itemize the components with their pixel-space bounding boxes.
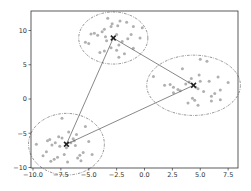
- data-point: [181, 67, 184, 70]
- data-point: [105, 39, 108, 42]
- data-point: [115, 49, 118, 52]
- data-point: [98, 51, 101, 54]
- data-point: [163, 84, 166, 87]
- data-point: [87, 42, 90, 45]
- data-point: [199, 80, 202, 83]
- data-point: [132, 25, 135, 28]
- data-point: [210, 95, 213, 98]
- data-point: [53, 158, 56, 161]
- x-tick-label: −10.0: [23, 171, 43, 179]
- data-point: [65, 146, 68, 149]
- data-point: [219, 98, 222, 101]
- data-point: [74, 144, 77, 147]
- data-point: [139, 37, 142, 40]
- centroid-connection-line: [66, 38, 113, 144]
- data-point: [45, 150, 48, 153]
- data-point: [75, 133, 78, 136]
- data-point: [172, 86, 175, 89]
- data-point: [198, 74, 201, 77]
- data-point: [125, 21, 128, 24]
- data-point: [48, 138, 51, 141]
- data-point: [184, 82, 187, 85]
- centroid-x-marker-icon: [111, 36, 116, 41]
- data-point: [35, 143, 38, 146]
- centroid-connection-line: [113, 38, 193, 85]
- data-point: [42, 154, 45, 157]
- y-axis: −10−50510: [13, 27, 31, 172]
- data-point: [78, 154, 81, 157]
- x-tick-label: 2.5: [167, 171, 177, 179]
- data-point: [66, 161, 69, 164]
- data-point: [91, 153, 94, 156]
- data-point: [117, 56, 120, 59]
- data-point: [82, 151, 85, 154]
- x-tick-label: −5.0: [81, 171, 97, 179]
- data-point: [79, 159, 82, 162]
- data-point: [117, 43, 120, 46]
- data-point: [63, 153, 66, 156]
- data-point: [186, 102, 189, 105]
- data-point: [219, 89, 222, 92]
- data-point: [116, 24, 119, 27]
- x-tick-label: −7.5: [53, 171, 69, 179]
- data-point: [56, 156, 59, 159]
- y-tick-label: 10: [19, 27, 27, 35]
- plot-area: [29, 12, 241, 175]
- data-point: [126, 37, 129, 40]
- x-tick-label: 5.0: [195, 171, 205, 179]
- data-point: [193, 99, 196, 102]
- y-tick-label: 5: [23, 61, 27, 69]
- data-point: [67, 130, 70, 133]
- data-point: [84, 41, 87, 44]
- data-point: [50, 143, 53, 146]
- data-point: [202, 90, 205, 93]
- data-point: [60, 137, 63, 140]
- centroid-x-marker-icon: [191, 83, 196, 88]
- data-point: [49, 160, 52, 163]
- data-point: [210, 100, 213, 103]
- data-point: [205, 60, 208, 63]
- data-point: [118, 19, 121, 22]
- data-point: [96, 34, 99, 37]
- data-point: [199, 58, 202, 61]
- data-point: [101, 30, 104, 33]
- data-point: [106, 17, 109, 20]
- data-point: [227, 81, 230, 84]
- data-point: [169, 83, 172, 86]
- scatter-chart: −10.0−7.5−5.0−2.50.02.55.07.5 −10−50510: [0, 0, 251, 191]
- data-point: [60, 117, 63, 120]
- data-point: [103, 28, 106, 31]
- data-point: [104, 35, 107, 38]
- data-point: [54, 141, 57, 144]
- data-point: [111, 22, 114, 25]
- data-point: [89, 32, 92, 35]
- y-tick-label: −10: [13, 164, 27, 172]
- x-tick-label: 7.5: [223, 171, 233, 179]
- data-point: [208, 80, 211, 83]
- x-tick-label: −2.5: [109, 171, 125, 179]
- y-tick-label: −5: [17, 130, 27, 138]
- y-tick-label: 0: [23, 95, 27, 103]
- centroid-connection-line: [66, 85, 193, 144]
- x-axis: −10.0−7.5−5.0−2.50.02.55.07.5: [23, 168, 233, 179]
- data-point: [93, 32, 96, 35]
- data-point: [110, 46, 113, 49]
- data-point: [152, 75, 155, 78]
- data-point: [141, 26, 144, 29]
- data-point: [76, 156, 79, 159]
- plot-frame: [31, 11, 238, 168]
- data-point: [84, 125, 87, 128]
- data-point: [57, 135, 60, 138]
- data-point: [123, 52, 126, 55]
- data-point: [58, 145, 61, 148]
- data-point: [190, 77, 193, 80]
- data-point: [217, 76, 220, 79]
- data-point: [103, 50, 106, 53]
- data-point: [191, 97, 194, 100]
- data-point: [213, 92, 216, 95]
- data-point: [130, 33, 133, 36]
- data-point: [110, 25, 113, 28]
- data-point: [87, 140, 90, 143]
- centroid-x-marker-icon: [64, 142, 69, 147]
- x-tick-label: 0.0: [139, 171, 149, 179]
